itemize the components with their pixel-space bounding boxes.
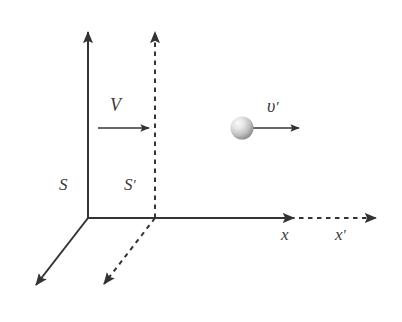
frame-s-prime-z-axis <box>104 218 155 284</box>
velocity-v-label: V <box>110 96 121 114</box>
particle-sphere <box>231 117 254 140</box>
frame-s-prime-label: S′ <box>124 176 136 193</box>
axis-x-label: x <box>281 226 289 243</box>
frame-s-prime-axes <box>104 32 376 284</box>
velocity-v-prime-label: υ′ <box>267 97 279 115</box>
axis-x-prime-label-base: x <box>335 225 343 244</box>
frame-s-axes <box>36 32 294 285</box>
axis-x-prime-label-mark: ′ <box>343 227 346 243</box>
frame-s-label: S <box>59 176 68 193</box>
frame-s-prime-label-mark: ′ <box>133 177 136 193</box>
velocity-v-prime-label-mark: ′ <box>275 98 278 115</box>
frame-s-prime-label-base: S <box>124 175 133 194</box>
axis-x-prime-label: x′ <box>335 226 346 243</box>
diagram-canvas: S S′ V υ′ x x′ <box>0 0 402 322</box>
frame-s-z-axis <box>36 218 88 285</box>
reference-frames-svg <box>0 0 402 322</box>
